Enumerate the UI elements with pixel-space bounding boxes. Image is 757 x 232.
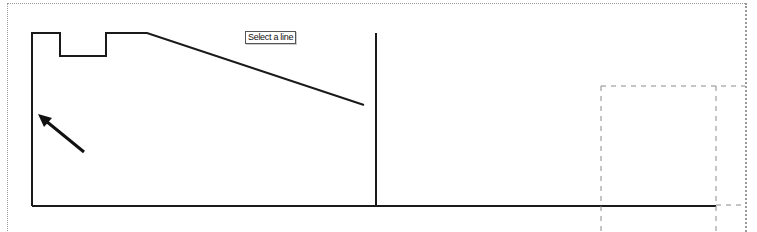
sketch-geometry[interactable] xyxy=(32,33,716,206)
cad-drawing-area[interactable] xyxy=(0,0,757,232)
profile-polyline[interactable] xyxy=(32,33,364,206)
select-line-tooltip: Select a line xyxy=(245,31,296,44)
selection-window xyxy=(601,86,745,232)
pointer-arrow-icon xyxy=(38,114,84,152)
